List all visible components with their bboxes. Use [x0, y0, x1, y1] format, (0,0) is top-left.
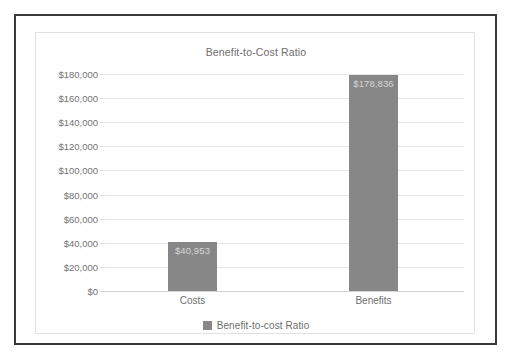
bar-benefits[interactable]: $178,836 — [349, 75, 398, 291]
y-axis-tick-label: $40,000 — [36, 237, 98, 248]
y-axis-tick-mark — [100, 170, 103, 171]
y-axis-tick-mark — [100, 291, 103, 292]
chart-legend: Benefit-to-cost Ratio — [36, 320, 476, 331]
y-axis-tick-label: $80,000 — [36, 189, 98, 200]
y-axis-tick-mark — [100, 74, 103, 75]
gridline — [102, 195, 464, 196]
legend-color-swatch-icon — [203, 321, 212, 330]
chart-title: Benefit-to-Cost Ratio — [36, 46, 476, 58]
y-axis-tick-label: $0 — [36, 286, 98, 297]
gridline — [102, 122, 464, 123]
legend-entry-label: Benefit-to-cost Ratio — [217, 320, 310, 331]
gridline — [102, 170, 464, 171]
y-axis-tick-mark — [100, 146, 103, 147]
y-axis-tick-mark — [100, 267, 103, 268]
y-axis-tick-mark — [100, 98, 103, 99]
y-axis-tick-mark — [100, 243, 103, 244]
gridline — [102, 74, 464, 75]
page-frame: Benefit-to-Cost Ratio $0$20,000$40,000$6… — [14, 14, 497, 345]
y-axis-tick-mark — [100, 219, 103, 220]
bar-costs[interactable]: $40,953 — [168, 242, 217, 291]
y-axis-tick-labels: $0$20,000$40,000$60,000$80,000$100,000$1… — [36, 74, 98, 291]
bar-value-label: $178,836 — [349, 78, 398, 89]
y-axis-tick-mark — [100, 122, 103, 123]
gridline — [102, 219, 464, 220]
y-axis-tick-label: $140,000 — [36, 117, 98, 128]
y-axis-tick-label: $160,000 — [36, 93, 98, 104]
bar-value-label: $40,953 — [168, 245, 217, 256]
category-label-benefits: Benefits — [283, 295, 464, 306]
plot-area: $40,953$178,836 — [102, 74, 464, 291]
y-axis-tick-label: $120,000 — [36, 141, 98, 152]
x-axis-category-labels: CostsBenefits — [102, 295, 464, 311]
y-axis-tick-label: $180,000 — [36, 69, 98, 80]
y-axis-tick-label: $60,000 — [36, 213, 98, 224]
gridline — [102, 267, 464, 268]
gridline — [102, 291, 464, 292]
y-axis-tick-label: $20,000 — [36, 261, 98, 272]
category-label-costs: Costs — [102, 295, 283, 306]
gridline — [102, 243, 464, 244]
y-axis-tick-mark — [100, 195, 103, 196]
chart-panel: Benefit-to-Cost Ratio $0$20,000$40,000$6… — [35, 32, 475, 334]
y-axis-tick-label: $100,000 — [36, 165, 98, 176]
gridline — [102, 98, 464, 99]
gridline — [102, 146, 464, 147]
